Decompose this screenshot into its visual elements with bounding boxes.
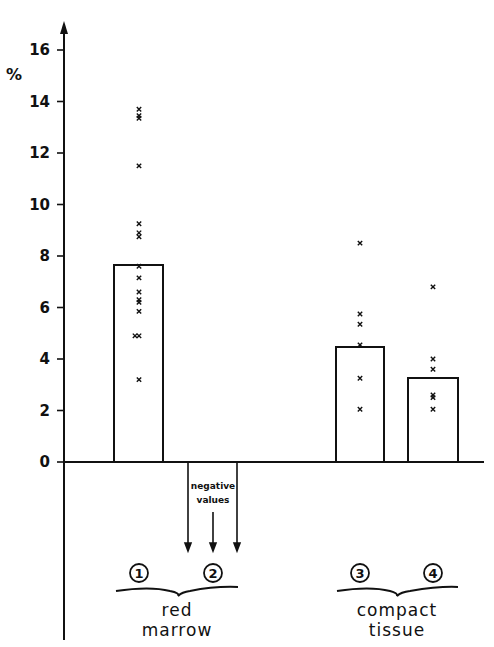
- data-point-marker: [358, 407, 362, 411]
- negative-label-line1: negative: [191, 481, 235, 491]
- data-point-marker: [137, 116, 141, 120]
- group-label-marrow: marrow: [142, 620, 213, 640]
- data-points: [133, 107, 435, 411]
- data-point-marker: [137, 300, 141, 304]
- group-label-compact: compact: [357, 600, 438, 620]
- circled-number-4: 4: [424, 564, 442, 582]
- data-point-marker: [358, 322, 362, 326]
- svg-text:2: 2: [208, 566, 217, 581]
- bar-1: [114, 265, 163, 462]
- y-tick-label: 10: [29, 196, 50, 214]
- data-point-marker: [133, 334, 137, 338]
- svg-text:3: 3: [355, 566, 364, 581]
- brace-red-marrow: [116, 587, 238, 596]
- y-tick-label: 2: [40, 402, 50, 420]
- data-point-marker: [137, 377, 141, 381]
- y-tick-label: 16: [29, 41, 50, 59]
- y-tick-label: 12: [29, 144, 50, 162]
- data-point-marker: [431, 407, 435, 411]
- data-point-marker: [431, 367, 435, 371]
- bars: [114, 265, 458, 462]
- data-point-marker: [431, 285, 435, 289]
- data-point-marker: [358, 312, 362, 316]
- y-tick-label: 4: [40, 350, 50, 368]
- data-point-marker: [137, 164, 141, 168]
- data-point-marker: [137, 234, 141, 238]
- bar-chart: 0246810121416 % negative values 1 2 3 4 …: [0, 0, 494, 647]
- data-point-marker: [137, 222, 141, 226]
- circled-number-3: 3: [351, 564, 369, 582]
- bar-4: [408, 378, 458, 462]
- circled-number-1: 1: [130, 564, 148, 582]
- data-point-marker: [137, 309, 141, 313]
- negative-label-line2: values: [197, 495, 230, 505]
- bar-3: [336, 347, 384, 462]
- circled-number-2: 2: [204, 564, 222, 582]
- negative-values-annotation: [185, 462, 240, 551]
- data-point-marker: [431, 395, 435, 399]
- svg-text:4: 4: [428, 566, 437, 581]
- data-point-marker: [358, 376, 362, 380]
- y-unit-label: %: [6, 65, 22, 84]
- y-tick-label: 8: [40, 247, 50, 265]
- y-ticks: 0246810121416: [29, 41, 64, 471]
- data-point-marker: [137, 290, 141, 294]
- y-tick-label: 6: [40, 299, 50, 317]
- y-tick-label: 14: [29, 93, 50, 111]
- brace-compact-tissue: [337, 587, 458, 596]
- y-axis-arrow-icon: [60, 21, 68, 34]
- data-point-marker: [431, 357, 435, 361]
- data-point-marker: [137, 276, 141, 280]
- svg-text:1: 1: [134, 566, 143, 581]
- data-point-marker: [137, 107, 141, 111]
- data-point-marker: [358, 241, 362, 245]
- group-label-red: red: [162, 600, 193, 620]
- group-label-tissue: tissue: [369, 620, 425, 640]
- y-tick-label: 0: [40, 453, 50, 471]
